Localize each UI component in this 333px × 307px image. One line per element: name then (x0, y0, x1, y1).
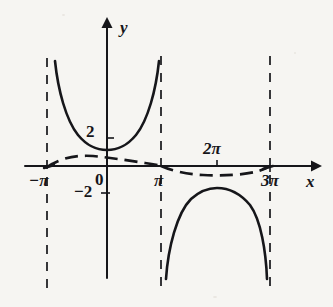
plot-canvas (0, 0, 333, 307)
y-axis-arrowhead (102, 17, 113, 28)
x-tick-label-2pi: 2π (203, 140, 221, 157)
origin-label: 0 (95, 171, 104, 188)
x-tick-label-3pi: 3π (261, 172, 279, 189)
y-axis (101, 17, 114, 278)
x-axis-label: x (306, 173, 315, 190)
x-tick-label-pi: π (154, 172, 163, 189)
y-tick-label-neg-2: −2 (74, 183, 92, 200)
curve-csc-lower-branch (166, 188, 267, 279)
scan-speckle (213, 296, 217, 298)
math-graph-figure: y x 0 2 −2 −π π 2π 3π (0, 0, 333, 307)
y-axis-label: y (120, 19, 128, 36)
scan-speckle (62, 14, 65, 16)
x-axis-arrowhead (311, 161, 322, 172)
scan-speckle (294, 52, 296, 54)
x-tick-label-neg-pi: −π (29, 172, 49, 189)
curve-sin-dashed-right (161, 166, 270, 175)
y-tick-label-2: 2 (86, 123, 95, 140)
